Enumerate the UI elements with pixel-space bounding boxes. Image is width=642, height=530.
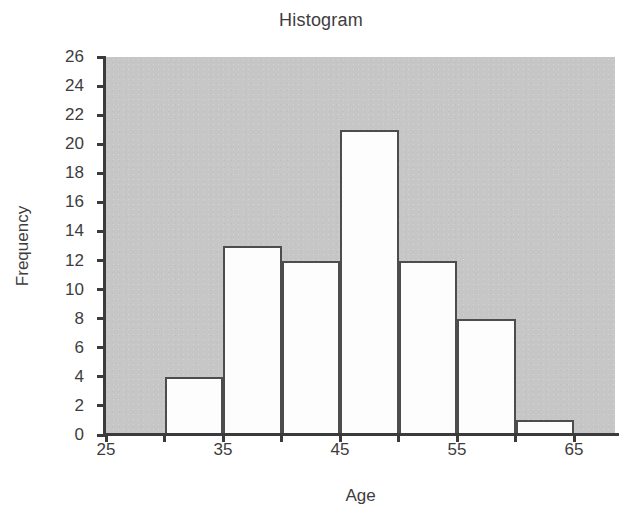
y-tick-mark (97, 201, 106, 204)
x-tick-label: 25 (76, 441, 136, 458)
x-tick-mark (397, 433, 400, 442)
y-axis-title-text: Frequency (13, 206, 33, 286)
x-axis-title: Age (106, 486, 615, 506)
x-tick-mark (280, 433, 283, 442)
y-tick-mark (97, 259, 106, 262)
histogram-bar (340, 130, 399, 435)
y-axis-title: Frequency (10, 57, 36, 435)
x-tick-mark (163, 433, 166, 442)
x-tick-mark (514, 433, 517, 442)
y-tick-label: 10 (40, 281, 84, 298)
x-axis-spine (103, 433, 619, 436)
y-tick-label: 18 (40, 164, 84, 181)
y-tick-mark (97, 375, 106, 378)
y-tick-mark (97, 172, 106, 175)
y-tick-label: 24 (40, 77, 84, 94)
y-tick-mark (97, 114, 106, 117)
histogram-bar (223, 246, 282, 435)
y-tick-label: 22 (40, 106, 84, 123)
y-tick-label: 14 (40, 222, 84, 239)
x-tick-label: 55 (427, 441, 487, 458)
y-tick-label: 2 (40, 397, 84, 414)
y-tick-mark (97, 317, 106, 320)
x-tick-label: 65 (544, 441, 604, 458)
histogram-bar (282, 261, 341, 435)
y-tick-label: 12 (40, 252, 84, 269)
histogram-figure: Histogram 02468101214161820222426 253545… (0, 0, 642, 530)
y-tick-mark (97, 230, 106, 233)
y-tick-mark (97, 346, 106, 349)
y-tick-label: 26 (40, 48, 84, 65)
y-tick-label: 20 (40, 135, 84, 152)
histogram-bar (165, 377, 224, 435)
y-tick-label: 6 (40, 339, 84, 356)
x-tick-label: 35 (193, 441, 253, 458)
y-tick-mark (97, 143, 106, 146)
y-tick-mark (97, 56, 106, 59)
x-tick-label: 45 (310, 441, 370, 458)
histogram-bar (457, 319, 516, 435)
y-tick-label: 16 (40, 193, 84, 210)
y-tick-label: 8 (40, 310, 84, 327)
histogram-bar (399, 261, 458, 435)
y-tick-mark (97, 404, 106, 407)
y-tick-mark (97, 288, 106, 291)
y-tick-label: 4 (40, 368, 84, 385)
plot-area (106, 57, 615, 435)
y-tick-mark (97, 85, 106, 88)
